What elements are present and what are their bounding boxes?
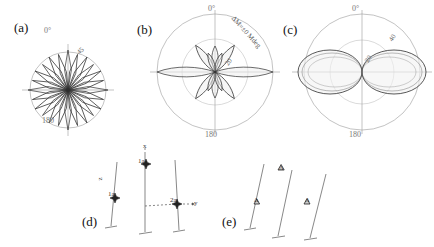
stem-label-d-2: 1a (138, 157, 145, 165)
polar-angle-bottom-a: 180 (42, 116, 54, 125)
stem-e-3 (310, 174, 326, 238)
stem-d-3 (175, 160, 179, 230)
figure-canvas: (a) (0, 0, 434, 247)
polar-angle-top-a: 0° (44, 26, 51, 35)
panel-c-polar-plot (292, 10, 432, 142)
panel-b-polar-plot (150, 10, 280, 140)
stem-e-2 (278, 170, 292, 236)
polar-angle-bottom-b: 180 (205, 130, 217, 139)
lobe-c-left (298, 50, 362, 94)
lobes-b (157, 43, 273, 101)
polar-angle-top-c: 0° (352, 4, 359, 13)
stem-label-e-3: Δ (305, 196, 310, 204)
stem-label-d-1: 1a (108, 190, 115, 198)
axis-label-d-y: y (194, 199, 198, 207)
stem-label-e-2: Δ (279, 164, 284, 172)
stem-label-d-3: 2a (170, 196, 177, 204)
panel-e-stem-plot (236, 150, 346, 242)
polar-angle-bottom-c: 180 (349, 130, 361, 139)
panel-label-e: (e) (222, 214, 236, 230)
axis-label-d-x: x (143, 142, 147, 150)
stem-label-e-1: Δ (254, 196, 259, 204)
polar-angle-top-b: 0° (208, 4, 215, 13)
panel-a-polar-plot (8, 28, 128, 143)
axis-label-d-z: z (96, 177, 104, 180)
